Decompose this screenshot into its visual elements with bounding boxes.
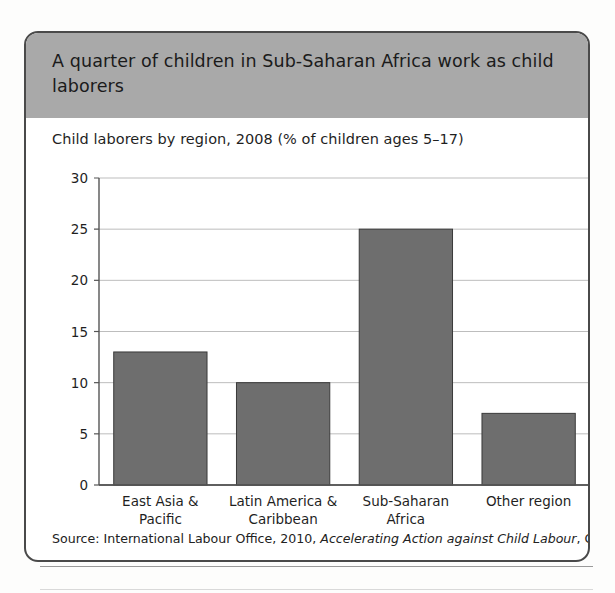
bar	[236, 383, 329, 485]
y-axis-tick-labels: 051015202530	[71, 170, 88, 493]
y-axis-tick-label: 15	[71, 324, 88, 340]
x-axis-category-label: East Asia &	[122, 493, 199, 509]
figure-card: A quarter of children in Sub-Saharan Afr…	[24, 31, 590, 562]
y-axis-tick-label: 20	[71, 272, 88, 288]
x-axis-category-label: Pacific	[139, 511, 182, 527]
y-axis-tick-label: 30	[71, 170, 88, 186]
x-axis-category-label: Caribbean	[248, 511, 317, 527]
x-axis-category-label: Africa	[387, 511, 426, 527]
chart-plot-area: 051015202530 East Asia &PacificLatin Ame…	[26, 33, 590, 562]
x-axis-category-label: Latin America &	[229, 493, 338, 509]
x-axis-category-label: Sub-Saharan	[363, 493, 450, 509]
y-axis-tick-label: 25	[71, 221, 88, 237]
bar	[114, 352, 207, 485]
page-rule-bottom	[40, 589, 593, 590]
page-rule-top	[40, 566, 593, 567]
source-title-italic: Accelerating Action against Child Labour	[320, 531, 576, 546]
y-axis-tick-label: 0	[79, 477, 88, 493]
bar	[359, 229, 452, 485]
source-prefix: Source: International Labour Office, 201…	[52, 531, 320, 546]
y-axis-tick-label: 10	[71, 375, 88, 391]
bars-group	[114, 229, 576, 485]
source-note: Source: International Labour Office, 201…	[52, 531, 574, 546]
x-axis-category-label: Other region	[486, 493, 571, 509]
bar-chart-svg: 051015202530 East Asia &PacificLatin Ame…	[26, 33, 590, 562]
bar	[482, 413, 575, 485]
x-axis-category-labels: East Asia &PacificLatin America &Caribbe…	[122, 493, 571, 527]
source-suffix: , Geneva	[577, 531, 590, 546]
y-axis-tick-label: 5	[79, 426, 88, 442]
